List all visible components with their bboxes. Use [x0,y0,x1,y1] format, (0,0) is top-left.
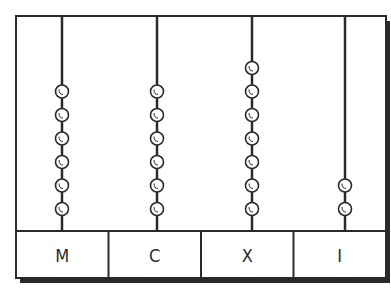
column-label-i: I [337,245,342,266]
abacus-bead [151,132,164,145]
abacus-bead [246,156,259,169]
column-label-m: M [55,245,69,266]
abacus-bead [246,203,259,216]
abacus-bead [246,109,259,122]
abacus-bead [56,156,69,169]
abacus-bead [151,109,164,122]
abacus-bead [246,62,259,75]
abacus-bead [339,203,352,216]
abacus-bead [56,179,69,192]
abacus-bead [56,132,69,145]
column-label-x: X [242,245,253,266]
abacus-diagram: MCXI [0,0,391,289]
abacus-bead [246,85,259,98]
abacus-bead [151,179,164,192]
abacus-bead [56,109,69,122]
abacus-bead [151,203,164,216]
abacus-bead [56,85,69,98]
abacus-bead [246,132,259,145]
abacus-bead [339,179,352,192]
column-label-c: C [149,245,160,266]
abacus-bead [151,156,164,169]
abacus-bead [151,85,164,98]
abacus-bead [56,203,69,216]
abacus-bead [246,179,259,192]
